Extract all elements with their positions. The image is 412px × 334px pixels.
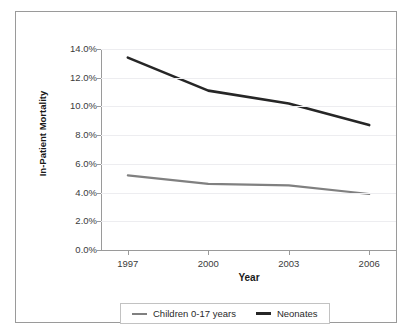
y-axis-tick (97, 250, 101, 251)
gridline (101, 106, 396, 107)
y-axis-tick (97, 49, 101, 50)
x-axis-tick-labels: 1997200020032006 (101, 258, 397, 272)
y-axis-tick (97, 135, 101, 136)
chart-screenshot: 0.0%2.0%4.0%6.0%8.0%10.0%12.0%14.0% In-P… (0, 0, 412, 334)
y-axis-tick-label: 8.0% (75, 130, 97, 140)
chart-legend: Children 0-17 yearsNeonates (120, 303, 330, 324)
line-series-neonates (128, 58, 369, 125)
x-axis-tick (208, 251, 209, 255)
y-axis-tick-label: 10.0% (70, 101, 97, 111)
legend-line-icon (132, 313, 147, 315)
chart-frame: 0.0%2.0%4.0%6.0%8.0%10.0%12.0%14.0% In-P… (15, 11, 397, 323)
clipped-top-text (0, 0, 412, 7)
x-axis-title: Year (101, 272, 397, 283)
legend-entry[interactable]: Children 0-17 years (132, 308, 236, 319)
y-axis-tick (97, 221, 101, 222)
gridline (101, 193, 396, 194)
legend-label: Children 0-17 years (153, 308, 236, 319)
series-lines (101, 49, 396, 250)
x-axis-tick-label: 2003 (278, 258, 299, 269)
legend-label: Neonates (277, 308, 318, 319)
y-axis-title: In-Patient Mortality (37, 74, 48, 194)
x-axis-tick (396, 251, 397, 255)
gridline (101, 221, 396, 222)
x-axis-tick (128, 251, 129, 255)
y-axis-tick-label: 6.0% (75, 159, 97, 169)
x-axis-tick (369, 251, 370, 255)
y-axis-tick (97, 106, 101, 107)
y-axis-tick-label: 14.0% (70, 44, 97, 54)
y-axis-tick-label: 2.0% (75, 216, 97, 226)
y-axis-tick-labels: 0.0%2.0%4.0%6.0%8.0%10.0%12.0%14.0% (44, 49, 97, 250)
gridline (101, 164, 396, 165)
y-axis-tick-label: 4.0% (75, 188, 97, 198)
gridline (101, 49, 396, 50)
gridline (101, 78, 396, 79)
y-axis-tick (97, 164, 101, 165)
y-axis-tick (97, 193, 101, 194)
x-axis-tick-label: 1997 (117, 258, 138, 269)
x-axis-tick-label: 2000 (198, 258, 219, 269)
plot-area (101, 49, 396, 250)
y-axis-tick (97, 78, 101, 79)
gridline (101, 135, 396, 136)
y-axis-tick-label: 0.0% (75, 245, 97, 255)
legend-line-icon (256, 312, 271, 315)
x-axis-tick (289, 251, 290, 255)
line-series-children (128, 175, 369, 194)
x-axis-line (101, 250, 397, 251)
y-axis-tick-label: 12.0% (70, 73, 97, 83)
legend-entry[interactable]: Neonates (256, 308, 318, 319)
x-axis-tick-label: 2006 (359, 258, 380, 269)
